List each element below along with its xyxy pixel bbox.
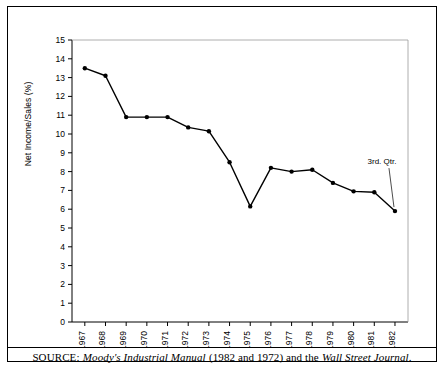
y-axis-tick-label: 13	[56, 73, 66, 83]
x-axis-tick-label: 1980	[346, 331, 356, 347]
y-axis-tick-label: 11	[56, 110, 65, 120]
y-axis-tick-label: 0	[60, 317, 65, 327]
source-italic-publication-2: Wall Street Journal	[322, 351, 409, 363]
source-italic-publication-1: Moody's Industrial Manual	[83, 351, 206, 363]
source-middle: (1982 and 1972) and the	[209, 351, 319, 363]
y-axis-tick-label: 8	[60, 167, 65, 177]
y-axis-tick-label: 2	[60, 279, 65, 289]
data-point-marker	[351, 189, 355, 193]
y-axis-tick-label: 1	[60, 298, 65, 308]
y-axis-tick-label: 7	[60, 185, 65, 195]
source-divider	[8, 347, 436, 348]
chart-plot-area: Net Income/Sales (%) 0123456789101112131…	[8, 7, 436, 347]
x-axis-tick-label: 1974	[222, 331, 232, 347]
y-axis-tick-label: 15	[56, 35, 66, 45]
line-chart: 0123456789101112131415196719681969197019…	[8, 7, 436, 347]
x-axis-tick-label: 1978	[304, 331, 314, 347]
x-axis-tick-label: 1979	[325, 331, 335, 347]
y-axis-tick-label: 3	[60, 261, 65, 271]
x-axis-tick-label: 1968	[97, 331, 107, 347]
data-point-marker	[207, 129, 211, 133]
data-point-marker	[145, 115, 149, 119]
x-axis-tick-label: 1975	[242, 331, 252, 347]
source-suffix: .	[409, 351, 412, 363]
data-point-marker	[103, 74, 107, 78]
data-point-marker	[124, 115, 128, 119]
x-axis-tick-label: 1969	[118, 331, 128, 347]
x-axis-tick-label: 1972	[180, 331, 190, 347]
x-axis-tick-label: 1970	[139, 331, 149, 347]
x-axis-tick-label: 1973	[201, 331, 211, 347]
data-point-marker	[83, 66, 87, 70]
x-axis-tick-label: 1976	[263, 331, 273, 347]
y-axis-tick-label: 5	[60, 223, 65, 233]
data-point-marker	[186, 125, 190, 129]
x-axis-tick-label: 1982	[387, 331, 397, 347]
x-axis-tick-label: 1977	[284, 331, 294, 347]
source-note: SOURCE: Moody's Industrial Manual (1982 …	[8, 350, 436, 363]
figure-box: Net Income/Sales (%) 0123456789101112131…	[7, 6, 437, 362]
data-point-marker	[372, 190, 376, 194]
y-axis-tick-label: 10	[56, 129, 66, 139]
x-axis-tick-label: 1967	[77, 331, 87, 347]
source-prefix: SOURCE:	[32, 351, 79, 363]
data-point-marker	[310, 168, 314, 172]
y-axis-tick-label: 6	[60, 204, 65, 214]
y-axis-tick-label: 9	[60, 148, 65, 158]
data-point-marker	[248, 204, 252, 208]
y-axis-tick-label: 14	[56, 54, 66, 64]
data-point-marker	[393, 209, 397, 213]
y-axis-tick-label: 12	[56, 91, 66, 101]
data-point-marker	[165, 115, 169, 119]
data-series-line	[85, 68, 395, 211]
data-point-marker	[269, 166, 273, 170]
data-point-marker	[289, 169, 293, 173]
data-point-marker	[227, 160, 231, 164]
chart-annotation-label: 3rd. Qtr.	[368, 157, 397, 166]
x-axis-tick-label: 1981	[366, 331, 376, 347]
x-axis-tick-label: 1971	[160, 331, 170, 347]
y-axis-tick-label: 4	[60, 242, 65, 252]
data-point-marker	[331, 181, 335, 185]
